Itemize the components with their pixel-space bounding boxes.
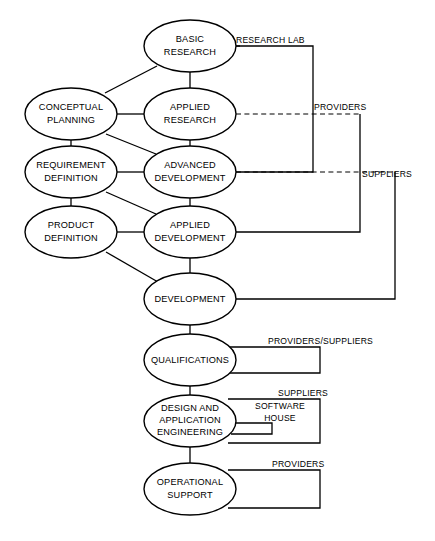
edge-requirement-to-applied-development [106, 192, 156, 214]
node-applied-development[interactable]: APPLIED DEVELOPMENT [144, 206, 236, 258]
node-shape [25, 206, 117, 258]
bracket-software-house [231, 423, 272, 434]
label-providers-bottom: PROVIDERS [272, 459, 324, 469]
node-label-line1: ADVANCED [164, 160, 216, 170]
diagram-svg: BASIC RESEARCH CONCEPTUAL PLANNING APPLI… [0, 0, 435, 541]
node-qualifications[interactable]: QUALIFICATIONS [144, 334, 236, 386]
node-label-line1: BASIC [176, 34, 205, 44]
node-label-line1: DEVELOPMENT [154, 294, 225, 304]
node-label-line2: DEVELOPMENT [154, 233, 225, 243]
label-research-lab: RESEARCH LAB [236, 35, 305, 45]
node-shape [25, 146, 117, 198]
edge-conceptual-to-basic-research [105, 66, 157, 93]
bracket-providers-suppliers [228, 347, 320, 373]
node-label-line1: APPLIED [170, 220, 210, 230]
label-providers-top: PROVIDERS [314, 102, 366, 112]
node-label-line1: OPERATIONAL [157, 477, 223, 487]
node-applied-research[interactable]: APPLIED RESEARCH [144, 88, 236, 140]
node-basic-research[interactable]: BASIC RESEARCH [144, 20, 236, 72]
node-label-line2: RESEARCH [164, 47, 216, 57]
node-label-line2: DEVELOPMENT [154, 173, 225, 183]
node-label-line1: REQUIREMENT [36, 160, 106, 170]
node-label-line2: PLANNING [47, 115, 95, 125]
label-suppliers-mid: SUPPLIERS [362, 169, 412, 179]
label-software-house-line1: SOFTWARE [255, 401, 305, 411]
label-providers-suppliers: PROVIDERS/SUPPLIERS [268, 336, 373, 346]
bracket-suppliers [236, 172, 395, 299]
edge-product-to-development [106, 252, 158, 282]
node-label-line1: CONCEPTUAL [39, 102, 103, 112]
node-shape [144, 463, 236, 515]
node-shape [144, 88, 236, 140]
node-requirement-definition[interactable]: REQUIREMENT DEFINITION [25, 146, 117, 198]
bracket-providers [236, 114, 360, 232]
label-suppliers-lower: SUPPLIERS [278, 388, 328, 398]
bracket-providers-bottom [228, 470, 320, 508]
node-operational-support[interactable]: OPERATIONAL SUPPORT [144, 463, 236, 515]
node-label-line1: APPLIED [170, 102, 210, 112]
node-shape [144, 206, 236, 258]
bracket-research-lab [236, 46, 313, 172]
flow-diagram-canvas: BASIC RESEARCH CONCEPTUAL PLANNING APPLI… [0, 0, 435, 541]
node-label-line1: QUALIFICATIONS [151, 355, 229, 365]
node-label-line2: DEFINITION [44, 173, 98, 183]
node-label-line1: PRODUCT [48, 220, 95, 230]
node-shape [144, 146, 236, 198]
label-software-house-line2: HOUSE [264, 413, 296, 423]
node-label-line2: SUPPORT [167, 490, 213, 500]
node-conceptual-planning[interactable]: CONCEPTUAL PLANNING [25, 88, 117, 140]
edge-conceptual-to-advanced-development [106, 134, 156, 154]
node-design-application-engineering[interactable]: DESIGN AND APPLICATION ENGINEERING [144, 395, 236, 447]
node-product-definition[interactable]: PRODUCT DEFINITION [25, 206, 117, 258]
node-development[interactable]: DEVELOPMENT [144, 273, 236, 325]
node-label-line1: DESIGN AND [161, 403, 219, 413]
node-advanced-development[interactable]: ADVANCED DEVELOPMENT [144, 146, 236, 198]
node-shape [25, 88, 117, 140]
node-label-line2: DEFINITION [44, 233, 98, 243]
node-shape [144, 20, 236, 72]
node-label-line2: APPLICATION [159, 415, 221, 425]
node-label-line2: RESEARCH [164, 115, 216, 125]
node-label-line3: ENGINEERING [157, 427, 223, 437]
